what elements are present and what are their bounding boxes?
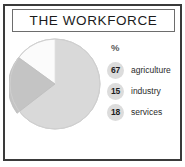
pie-chart <box>9 38 101 130</box>
legend-item-label: agriculture <box>131 65 171 75</box>
legend-value-badge: 18 <box>107 104 124 121</box>
title-box: THE WORKFORCE <box>12 9 175 32</box>
legend-item-services: 18 services <box>107 102 179 122</box>
legend-item-agriculture: 67 agriculture <box>107 60 179 80</box>
legend: % 67 agriculture 15 industry 18 services <box>107 42 179 123</box>
legend-value-badge: 15 <box>107 83 124 100</box>
pie-chart-svg <box>9 38 101 130</box>
legend-item-industry: 15 industry <box>107 81 179 101</box>
chart-plate: % 67 agriculture 15 industry 18 services… <box>5 34 180 159</box>
legend-item-label: services <box>131 107 162 117</box>
page-title: THE WORKFORCE <box>30 13 158 28</box>
workforce-infographic: THE WORKFORCE % 67 agriculture 15 indust… <box>0 0 185 167</box>
legend-item-label: industry <box>131 86 161 96</box>
legend-unit-label: % <box>111 42 179 53</box>
legend-value-badge: 67 <box>107 62 124 79</box>
